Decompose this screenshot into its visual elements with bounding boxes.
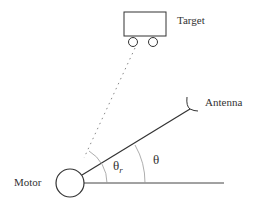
theta-label: θ — [153, 152, 159, 168]
target-cart-icon — [124, 12, 166, 47]
antenna-label: Antenna — [205, 96, 242, 108]
motor-icon — [56, 169, 84, 197]
theta-r-subscript: r — [119, 165, 123, 175]
target-line-of-sight — [84, 48, 135, 158]
theta-arc — [135, 145, 145, 183]
antenna-arm — [82, 109, 190, 175]
theta-r-arc — [89, 151, 107, 183]
theta-r-label: θr — [113, 158, 123, 174]
motor-label: Motor — [14, 176, 42, 188]
target-label: Target — [177, 14, 205, 26]
antenna-dish-icon — [187, 97, 198, 111]
